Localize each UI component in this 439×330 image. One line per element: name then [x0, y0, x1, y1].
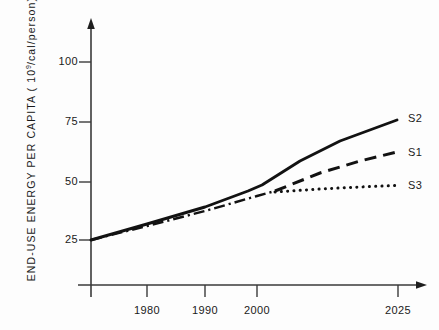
y-axis-arrow-icon [87, 18, 95, 29]
x-axis-arrow-icon [416, 281, 427, 289]
chart-figure: END-USE ENERGY PER CAPITA ( 109/cal/pers… [0, 0, 439, 330]
series-line-s1 [275, 152, 397, 191]
chart-plot-area [0, 0, 439, 330]
series-line-s2 [91, 120, 397, 240]
series-line-s3 [275, 186, 397, 193]
